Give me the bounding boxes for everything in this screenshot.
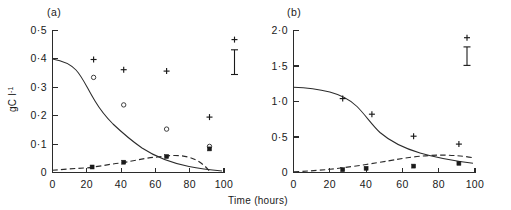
panel-a-ylabel-superscript: -1 [7, 86, 14, 93]
panel-b-solid-curve [294, 87, 474, 163]
panel-b-xtick-3: 60 [396, 178, 408, 190]
panel-b-plus-markers [340, 96, 462, 148]
panel-a-open-circle-markers [91, 75, 211, 148]
figure-container: (a) gC l-1 0 0·1 0·2 0·3 [0, 0, 511, 210]
panel-b-xtick-4: 80 [432, 178, 444, 190]
x-axis-title: Time (hours) [228, 190, 288, 208]
panel-b-xtick-2: 40 [360, 178, 372, 190]
panel-a-y-axis-title: gC l-1 [7, 86, 19, 112]
panel-b-filled-square-markers [341, 161, 461, 171]
panel-a-ylabel-text: gC l [7, 93, 18, 112]
panel-b-dashed-curve [294, 155, 474, 172]
panel-b-error-bar [464, 35, 471, 66]
x-axis-title-text: Time (hours) [228, 195, 288, 206]
panel-a-label: (a) [47, 6, 61, 18]
panel-a-ytick-0: 0 [41, 166, 47, 178]
panel-b-ytick-0: 0 [282, 166, 288, 178]
panel-b-ytick-1: 0·5 [272, 131, 288, 143]
panel-b-ytick-2: 1·0 [272, 95, 288, 107]
panel-a-plus-markers [91, 57, 213, 121]
panel-a-ytick-1: 0·1 [31, 138, 47, 150]
panel-b-y-ticks [294, 31, 299, 173]
panel-a-xtick-2: 40 [115, 178, 127, 190]
panel-b-xtick-0: 0 [290, 178, 296, 190]
panel-b-y-tick-labels: 0 0·5 1·0 1·5 2·0 [272, 24, 288, 178]
panel-a-error-bar [231, 37, 238, 75]
panel-a-xtick-3: 60 [149, 178, 161, 190]
panel-a-plot: (a) gC l-1 0 0·1 0·2 0·3 [0, 0, 262, 210]
panel-a-xtick-1: 20 [81, 178, 93, 190]
panel-b: (b) 0 0·5 1·0 1·5 2·0 [255, 0, 511, 210]
panel-a-ytick-3: 0·3 [31, 81, 47, 93]
panel-a-xtick-4: 80 [183, 178, 195, 190]
panel-a-x-tick-labels: 0 20 40 60 80 100 [49, 178, 233, 190]
panel-b-plot: (b) 0 0·5 1·0 1·5 2·0 [255, 0, 511, 210]
panel-a: (a) gC l-1 0 0·1 0·2 0·3 [0, 0, 262, 210]
panel-a-xtick-0: 0 [49, 178, 55, 190]
panel-b-ytick-4: 2·0 [272, 24, 288, 36]
panel-a-y-tick-labels: 0 0·1 0·2 0·3 0·4 0·5 [31, 24, 47, 178]
panel-b-ytick-3: 1·5 [272, 60, 288, 72]
panel-b-xtick-5: 100 [466, 178, 485, 190]
svg-text:gC l-1: gC l-1 [7, 86, 19, 112]
panel-a-ytick-5: 0·5 [31, 24, 47, 36]
panel-a-y-ticks [53, 31, 58, 173]
panel-a-solid-curve [53, 59, 223, 171]
panel-a-xtick-5: 100 [215, 178, 234, 190]
panel-a-dashed-curve [53, 156, 211, 172]
panel-a-ytick-2: 0·2 [31, 109, 47, 121]
panel-b-xtick-1: 20 [324, 178, 336, 190]
panel-a-ytick-4: 0·4 [31, 52, 47, 64]
panel-b-label: (b) [287, 6, 301, 18]
panel-b-x-tick-labels: 0 20 40 60 80 100 [290, 178, 484, 190]
